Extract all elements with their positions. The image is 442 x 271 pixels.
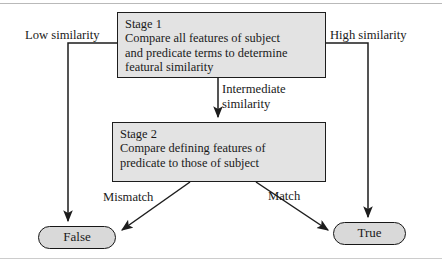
terminal-false: False	[38, 226, 116, 249]
edge-label-high-similarity: High similarity	[330, 28, 407, 43]
edge-label-low-similarity: Low similarity	[25, 28, 100, 43]
stage-2-line-2: Compare defining features of	[120, 141, 325, 155]
stage-1-line-4: featural similarity	[125, 60, 325, 74]
stage-1-title: Stage 1	[125, 17, 325, 31]
edge-high-similarity	[326, 43, 368, 217]
stage-1-line-3: and predicate terms to determine	[125, 46, 325, 60]
stage-1-box: Stage 1 Compare all features of subject …	[117, 12, 326, 78]
edge-label-intermediate-line-2: similarity	[222, 97, 286, 112]
stage-2-box: Stage 2 Compare defining features of pre…	[112, 122, 326, 182]
edge-label-intermediate-line-1: Intermediate	[222, 82, 286, 97]
edge-label-match: Match	[268, 189, 300, 204]
flowchart-figure: Stage 1 Compare all features of subject …	[0, 0, 442, 271]
edge-label-mismatch: Mismatch	[103, 190, 153, 205]
terminal-true: True	[333, 222, 406, 245]
edge-label-intermediate-similarity: Intermediate similarity	[222, 82, 286, 111]
stage-1-line-2: Compare all features of subject	[125, 31, 325, 45]
stage-2-line-3: predicate to those of subject	[120, 156, 325, 170]
stage-2-title: Stage 2	[120, 127, 325, 141]
